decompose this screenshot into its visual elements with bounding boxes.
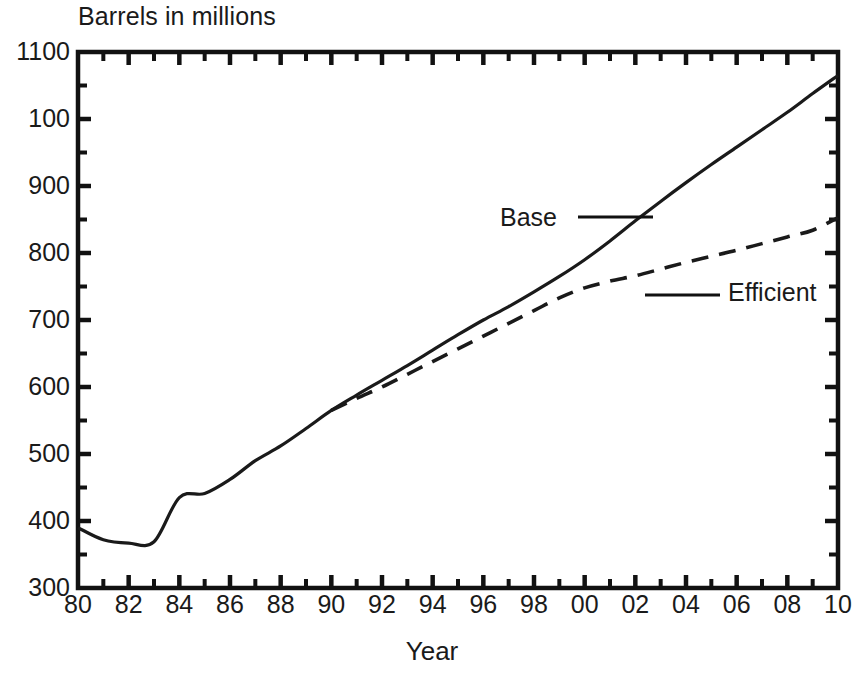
axes-frame (78, 52, 838, 588)
axis-ticks (78, 52, 838, 588)
y-axis-title: Barrels in millions (78, 2, 276, 31)
y-tick-label: 400 (0, 508, 70, 533)
y-tick-label: 100 (0, 106, 70, 131)
x-tick-label: 10 (808, 592, 864, 617)
chart-figure: Barrels in millions 11001009008007006005… (0, 0, 864, 673)
data-series (78, 75, 838, 545)
series-label-efficient: Efficient (728, 280, 816, 305)
series-line-base (78, 75, 838, 545)
series-line-efficient (331, 217, 838, 410)
y-tick-label: 600 (0, 374, 70, 399)
y-tick-label: 1100 (0, 39, 70, 64)
series-label-base: Base (500, 205, 557, 230)
y-tick-label: 500 (0, 441, 70, 466)
x-axis-title: Year (0, 636, 864, 667)
y-tick-label: 700 (0, 307, 70, 332)
chart-plot-area (0, 0, 864, 673)
y-tick-label: 800 (0, 240, 70, 265)
y-tick-label: 900 (0, 173, 70, 198)
